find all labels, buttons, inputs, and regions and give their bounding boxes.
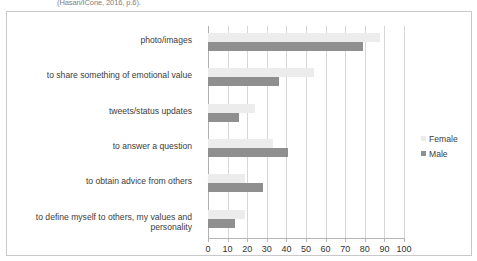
x-axis-tick [267, 238, 268, 242]
category-label: to answer a question [0, 141, 192, 151]
x-axis-tick [326, 238, 327, 242]
chart-category-row: photo/images [7, 26, 471, 61]
bar-female [208, 139, 273, 148]
bar-male [208, 77, 279, 86]
bar-female [208, 174, 245, 183]
x-axis-tick [286, 238, 287, 242]
category-label: tweets/status updates [0, 106, 192, 116]
x-axis-tick [306, 238, 307, 242]
x-tick-label: 100 [391, 244, 417, 254]
bar-male [208, 148, 288, 157]
category-label: photo/images [0, 35, 192, 45]
x-axis-tick [384, 238, 385, 242]
chart-category-row: to obtain advice from others [7, 167, 471, 202]
bar-female [208, 68, 314, 77]
bar-male [208, 183, 263, 192]
x-axis-tick [247, 238, 248, 242]
chart-frame: FemaleMale 0102030405060708090100photo/i… [6, 11, 472, 256]
chart-category-row: to share something of emotional value [7, 61, 471, 96]
bar-female [208, 33, 380, 42]
bar-female [208, 210, 245, 219]
bar-female [208, 104, 255, 113]
category-label: to share something of emotional value [0, 70, 192, 80]
x-axis-tick [208, 238, 209, 242]
x-axis-tick [345, 238, 346, 242]
chart-category-row: to define myself to others, my values an… [7, 203, 471, 238]
bar-male [208, 219, 235, 228]
chart-category-row: to answer a question [7, 132, 471, 167]
x-axis-tick [365, 238, 366, 242]
category-label: to obtain advice from others [0, 176, 192, 186]
category-label: to define myself to others, my values an… [0, 212, 192, 233]
x-axis-tick [228, 238, 229, 242]
chart-category-row: tweets/status updates [7, 97, 471, 132]
figure-caption: (Hasan/ICone, 2016, p.6). [57, 0, 141, 7]
bar-male [208, 42, 363, 51]
x-axis-tick [404, 238, 405, 242]
bar-male [208, 113, 239, 122]
